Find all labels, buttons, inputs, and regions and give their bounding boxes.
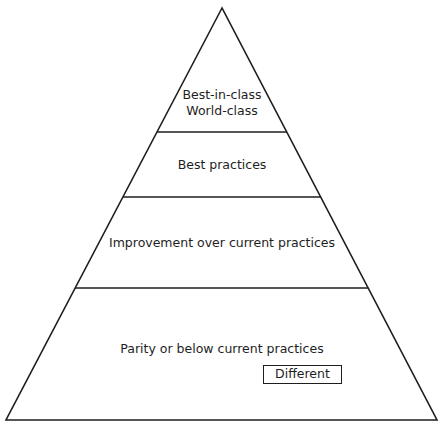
level-top-label: Best-in-class World-class [182,87,261,119]
level-second-label: Best practices [178,157,267,173]
level-top-line-1: Best-in-class [182,87,261,103]
level-base-label: Parity or below current practices [120,341,323,357]
level-top-line-2: World-class [182,103,261,119]
pyramid-outline [6,8,437,420]
pyramid-diagram [0,0,441,428]
different-tag-box: Different [263,365,342,384]
level-third-label: Improvement over current practices [109,235,335,251]
